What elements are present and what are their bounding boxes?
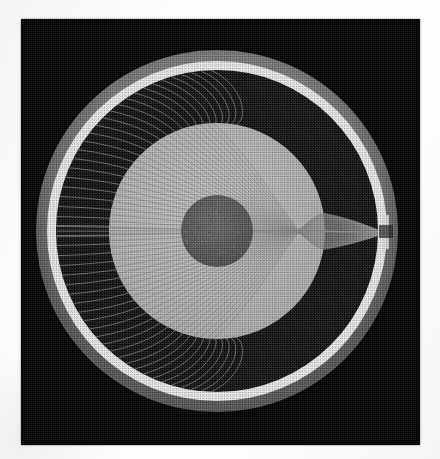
figure-page: Ray-trace cross-section of concentric re… xyxy=(0,0,440,459)
ray-diagram-svg xyxy=(21,19,420,445)
figure-plate xyxy=(21,19,420,445)
